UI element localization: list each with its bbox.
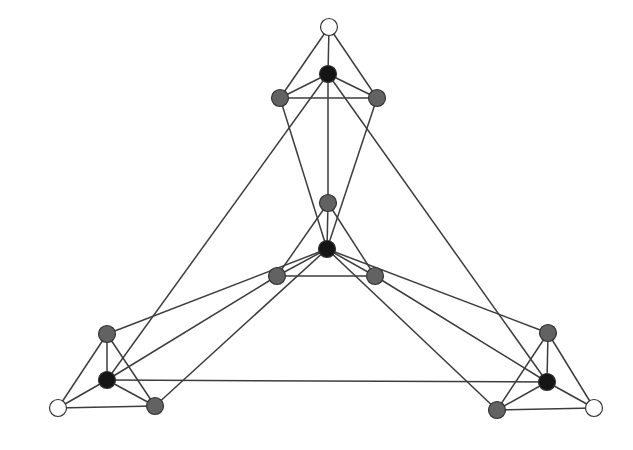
edge-bl-white-to-bl-gray-top (58, 334, 107, 408)
edge-center-black-to-bl-gray-right (155, 249, 327, 406)
edge-top-white-to-top-gray-left (280, 27, 329, 98)
node-top-white (321, 19, 338, 36)
edge-center-gray-left-to-bl-black (107, 276, 277, 380)
node-top-gray-right (369, 90, 386, 107)
edge-bl-black-to-br-black (107, 380, 547, 382)
nodes-layer (50, 19, 603, 419)
edge-br-white-to-br-gray-top (548, 333, 594, 408)
edge-top-white-to-top-gray-right (329, 27, 377, 98)
edge-br-white-to-br-gray-left (497, 408, 594, 410)
node-center-gray-left (269, 268, 286, 285)
node-center-black (319, 241, 336, 258)
graph-diagram (0, 0, 633, 450)
edge-top-gray-left-to-center-black (280, 98, 327, 249)
node-center-gray-right (367, 268, 384, 285)
node-br-white (586, 400, 603, 417)
node-bl-gray-top (99, 326, 116, 343)
edge-top-black-to-br-black (328, 74, 547, 382)
edge-top-black-to-bl-black (107, 74, 328, 380)
edge-center-black-to-br-gray-top (327, 249, 548, 333)
edges-layer (58, 27, 594, 410)
node-br-black (539, 374, 556, 391)
edge-center-black-to-bl-gray-top (107, 249, 327, 334)
node-bl-black (99, 372, 116, 389)
node-br-gray-top (540, 325, 557, 342)
node-top-black (320, 66, 337, 83)
edge-center-gray-right-to-br-black (375, 276, 547, 382)
edge-bl-white-to-bl-gray-right (58, 406, 155, 408)
node-br-gray-left (489, 402, 506, 419)
edge-center-black-to-br-gray-left (327, 249, 497, 410)
node-center-gray-top (320, 195, 337, 212)
edge-top-gray-right-to-center-black (327, 98, 377, 249)
node-bl-gray-right (147, 398, 164, 415)
node-top-gray-left (272, 90, 289, 107)
node-bl-white (50, 400, 67, 417)
